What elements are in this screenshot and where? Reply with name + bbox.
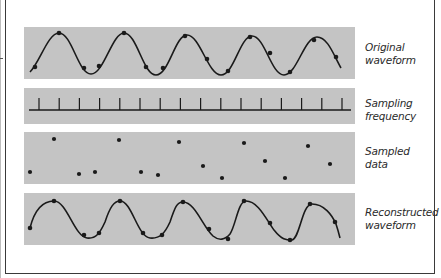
data-point [144,65,149,70]
data-point [242,199,247,204]
data-point [288,70,293,75]
data-point [97,64,102,69]
data-point [118,199,123,204]
label-sampling-frequency: Sampling frequency [365,97,416,123]
label-line: waveform [365,219,439,232]
data-point [93,170,97,174]
label-line: data [365,158,410,171]
data-point [183,34,188,39]
data-point [77,172,81,176]
data-point [248,35,253,40]
data-point [283,176,287,180]
label-reconstructed-waveform: Reconstructed waveform [365,206,439,232]
data-point [82,233,87,238]
data-point [28,170,32,174]
data-point [122,31,127,36]
label-line: Sampled [365,145,410,158]
data-point [308,202,313,207]
data-point [139,170,143,174]
data-point [52,199,57,204]
data-point [205,57,210,62]
data-point [268,221,273,226]
data-point [220,176,224,180]
data-point [160,233,165,238]
data-point [97,231,102,236]
data-point [156,173,160,177]
label-line: waveform [365,54,416,67]
data-point [333,220,338,225]
data-point [161,66,166,71]
label-line: Original [365,41,416,54]
data-point [117,138,121,142]
data-point [177,140,181,144]
data-point [288,238,293,243]
data-point [263,159,267,163]
data-point [201,164,205,168]
data-point [334,55,339,60]
data-point [207,227,212,232]
data-point [28,226,33,231]
data-point [226,237,231,242]
data-point [306,144,310,148]
reconstructed-waveform-band [24,193,355,245]
data-point [141,231,146,236]
data-point [52,137,56,141]
sampled-data-band [24,132,355,184]
label-line: Sampling [365,97,416,110]
data-point [82,66,87,71]
data-point [242,141,246,145]
sampling-frequency-band [24,88,355,124]
label-line: frequency [365,110,416,123]
data-point [33,65,38,70]
label-original-waveform: Original waveform [365,41,416,67]
data-point [268,51,273,56]
data-point [57,31,62,36]
data-point [328,162,332,166]
data-point [181,200,186,205]
label-line: Reconstructed [365,206,439,219]
data-point [312,38,317,43]
label-sampled-data: Sampled data [365,145,410,171]
data-point [226,69,231,74]
